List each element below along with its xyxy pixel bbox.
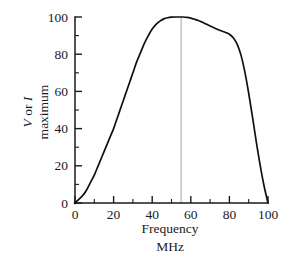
- y-axis-title: V or I maximum: [20, 84, 51, 139]
- x-axis-tick-labels: 020406080100: [72, 207, 279, 222]
- svg-text:V or I: V or I: [20, 95, 35, 127]
- x-tick-label: 80: [223, 207, 237, 222]
- x-tick-label: 0: [72, 207, 79, 222]
- x-tick-label: 20: [107, 207, 121, 222]
- y-axis-title-i: I: [20, 95, 35, 102]
- y-tick-label: 0: [61, 196, 68, 211]
- y-axis-title-line2: maximum: [36, 84, 51, 139]
- y-axis: 020406080100: [48, 10, 82, 211]
- x-axis-ticks: [75, 196, 268, 203]
- response-curve: [75, 17, 268, 203]
- y-tick-label: 100: [48, 10, 69, 25]
- x-axis-title: Frequency MHz: [142, 221, 199, 254]
- x-axis-title-units: MHz: [156, 239, 184, 254]
- x-axis-title-line1: Frequency: [142, 221, 199, 236]
- bandpass-response-chart: 020406080100 020406080100 V or I maximum…: [0, 0, 290, 258]
- y-tick-label: 60: [55, 84, 69, 99]
- chart-canvas: 020406080100 020406080100 V or I maximum…: [0, 0, 290, 258]
- x-axis: 020406080100: [72, 196, 279, 222]
- x-tick-label: 40: [145, 207, 159, 222]
- y-tick-label: 40: [55, 121, 69, 136]
- y-tick-label: 20: [55, 158, 69, 173]
- y-tick-label: 80: [55, 47, 69, 62]
- y-axis-ticks: [75, 17, 82, 203]
- x-tick-label: 100: [258, 207, 279, 222]
- x-tick-label: 60: [184, 207, 198, 222]
